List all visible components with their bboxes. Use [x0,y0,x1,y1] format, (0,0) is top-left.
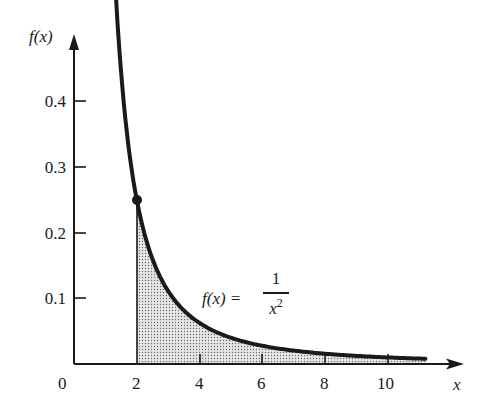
x-tick-label-2: 2 [132,375,141,392]
chart-canvas [0,0,484,416]
formula-lhs: f(x) = [202,290,241,307]
y-tick-label-0.2: 0.2 [26,225,66,242]
y-tick-label-0.1: 0.1 [26,290,66,307]
origin-label: 0 [58,375,67,392]
y-ticks [74,101,86,298]
x-tick-label-10: 10 [377,375,394,392]
x-tick-label-8: 8 [320,375,329,392]
fraction-bar [263,292,289,294]
y-axis-label: f(x) [29,28,53,45]
x-tick-label-4: 4 [195,375,204,392]
x-tick-label-6: 6 [257,375,266,392]
formula-numerator: 1 [272,269,281,289]
point-x2 [132,195,142,205]
formula-fraction: 1 x2 [263,269,289,318]
formula-exponent: 2 [277,296,283,310]
formula-denominator: x [269,298,277,317]
y-tick-label-0.4: 0.4 [26,93,66,110]
y-axis-arrow-icon [69,34,79,50]
x-axis-label: x [453,376,461,393]
y-tick-label-0.3: 0.3 [26,159,66,176]
